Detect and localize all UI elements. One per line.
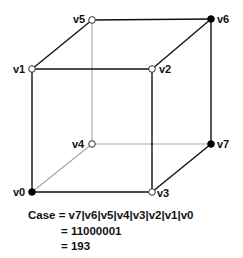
edge-v1-v5 xyxy=(32,20,92,69)
vertex-v4-open xyxy=(89,141,96,148)
label-v1: v1 xyxy=(13,63,25,75)
vertex-v0-filled xyxy=(29,189,36,196)
equation-line-3: = 193 xyxy=(61,240,90,252)
vertex-v3-open xyxy=(149,189,156,196)
label-v2: v2 xyxy=(159,63,171,75)
equation-line-1: Case = v7|v6|v5|v4|v3|v2|v1|v0 xyxy=(28,209,193,221)
case-label: Case xyxy=(28,209,56,221)
edge-v4-v0 xyxy=(32,144,92,192)
vertex-v6-filled xyxy=(208,16,215,23)
label-v6: v6 xyxy=(217,13,229,25)
edge-v5-v6 xyxy=(92,19,211,20)
vertex-labels: v0 v1 v2 v3 v4 v5 v6 v7 xyxy=(13,13,229,199)
visible-edges xyxy=(32,19,211,192)
vertex-v1-open xyxy=(29,66,36,73)
edge-v3-v7 xyxy=(152,144,211,192)
vertex-v5-open xyxy=(89,17,96,24)
case-bit-expression: = v7|v6|v5|v4|v3|v2|v1|v0 xyxy=(59,209,194,221)
edge-v2-v6 xyxy=(152,19,211,69)
label-v5: v5 xyxy=(73,13,85,25)
vertex-v7-filled xyxy=(208,141,215,148)
equation-line-2: = 11000001 xyxy=(61,225,121,237)
vertex-v2-open xyxy=(149,66,156,73)
label-v4: v4 xyxy=(72,138,85,150)
label-v0: v0 xyxy=(13,186,25,198)
label-v3: v3 xyxy=(157,187,169,199)
label-v7: v7 xyxy=(217,138,229,150)
vertices xyxy=(29,16,215,196)
